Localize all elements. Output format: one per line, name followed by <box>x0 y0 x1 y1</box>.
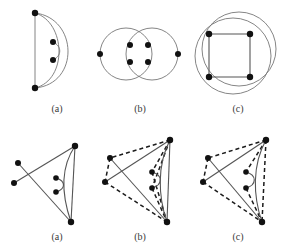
vertex-inner-lower <box>50 57 56 63</box>
vertex-left-upper <box>15 160 21 166</box>
vertex-inner-lower <box>53 189 59 195</box>
vertex-inner-lower <box>149 185 155 191</box>
vertex-inner-top-right <box>145 42 151 48</box>
vertex-apex <box>263 137 269 143</box>
vertex-square-top-left <box>206 31 212 37</box>
edge-left-upper-to-bottom <box>18 163 71 222</box>
caption-top-a: (a) <box>51 103 62 115</box>
vertex-left-lower <box>200 179 206 185</box>
vertex-apex <box>167 137 173 143</box>
vertex-left-upper <box>107 155 113 161</box>
vertex-square-top-right <box>247 31 253 37</box>
caption-bottom-c: (c) <box>232 231 243 243</box>
caption-top-b: (b) <box>134 103 146 115</box>
vertex-inner-upper <box>243 169 249 175</box>
dashed-apex-to-bottom <box>262 140 266 222</box>
vertex-bottom <box>259 219 265 225</box>
panel-top-b: (b) <box>97 28 181 115</box>
vertex-right-outer <box>175 51 181 57</box>
edge-apex-to-bottom <box>167 140 170 222</box>
graph-figure-svg: (a) (b) (c) <box>0 0 288 249</box>
vertex-square-bottom-left <box>206 74 212 80</box>
vertex-inner-lower <box>243 185 249 191</box>
edge-square <box>209 34 250 77</box>
edge-arc-inner <box>35 13 59 88</box>
vertex-inner-top-left <box>127 42 133 48</box>
vertex-inner-upper <box>50 39 56 45</box>
dashed-inner-lower-to-bottom <box>246 188 262 222</box>
circle-upper <box>202 12 276 86</box>
vertex-left-outer <box>97 51 103 57</box>
panel-bottom-b: (b) <box>102 137 173 243</box>
panel-bottom-a: (a) <box>11 143 78 243</box>
caption-bottom-a: (a) <box>51 231 62 243</box>
dashed-left-upper-to-left-lower <box>203 158 208 182</box>
vertex-bottom <box>164 219 170 225</box>
circle-lower <box>195 18 271 94</box>
vertex-apex <box>72 143 78 149</box>
panel-bottom-c: (c) <box>200 137 269 243</box>
vertex-bottom-left <box>32 85 38 91</box>
panel-top-c: (c) <box>195 12 276 115</box>
vertex-left-lower <box>102 179 108 185</box>
vertex-square-bottom-right <box>247 74 253 80</box>
panel-top-a: (a) <box>32 10 68 115</box>
vertex-top-left <box>32 10 38 16</box>
vertex-inner-bottom-right <box>145 59 151 65</box>
vertex-left-lower <box>11 180 17 186</box>
vertex-inner-bottom-left <box>127 59 133 65</box>
edge-apex-to-bottom <box>71 146 75 222</box>
vertex-bottom <box>68 219 74 225</box>
caption-top-c: (c) <box>232 103 243 115</box>
vertex-left-upper <box>205 155 211 161</box>
vertex-inner-upper <box>149 169 155 175</box>
dashed-left-upper-to-left-lower <box>105 158 110 182</box>
vertex-inner-upper <box>53 175 59 181</box>
caption-bottom-b: (b) <box>134 231 146 243</box>
figure-container: (a) (b) (c) <box>0 0 288 249</box>
edge-apex-to-left-lower <box>203 140 266 182</box>
